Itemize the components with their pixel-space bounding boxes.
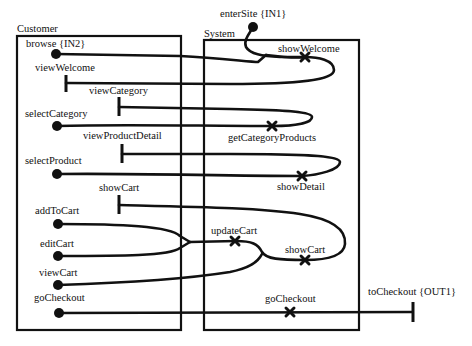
wire-addToCart: addToCart [35,205,190,242]
label-viewWelcome: viewWelcome [35,62,95,73]
label-goCheckout-system: goCheckout [265,293,316,304]
label-showCart-customer: showCart [99,182,139,193]
customer-label: Customer [17,23,58,34]
wire-viewCategory: viewCategory [89,85,312,126]
label-getCategoryProducts: getCategoryProducts [228,132,316,143]
wire-selectProduct: selectProduct [25,155,302,179]
label-viewCart: viewCart [39,267,78,278]
wire-viewCart: viewCart [39,254,262,290]
label-viewCategory: viewCategory [89,85,149,96]
label-selectCategory: selectCategory [25,108,88,119]
label-addToCart: addToCart [35,205,79,216]
wire-editCart: editCart [40,238,305,261]
wire-browse: browse {IN2} [26,38,305,62]
wire-goCheckout: goCheckout [34,292,413,322]
wire-viewWelcome: viewWelcome [35,57,334,92]
label-showCart-system: showCart [285,244,325,255]
label-goCheckout-customer: goCheckout [34,292,85,303]
wiring-diagram: Customer System enterSite {IN1} browse {… [0,0,472,346]
label-editCart: editCart [40,238,74,249]
system-label: System [204,28,235,39]
port-label-browse: browse {IN2} [26,38,85,49]
label-showDetail: showDetail [277,181,325,192]
label-viewProductDetail: viewProductDetail [83,130,162,141]
label-selectProduct: selectProduct [25,155,82,166]
wire-selectCategory: selectCategory [25,108,272,131]
label-updateCart: updateCart [211,225,257,236]
port-label-toCheckout: toCheckout {OUT1} [368,286,456,297]
port-label-enterSite: enterSite {IN1} [220,8,286,19]
system-box: System [204,28,359,330]
